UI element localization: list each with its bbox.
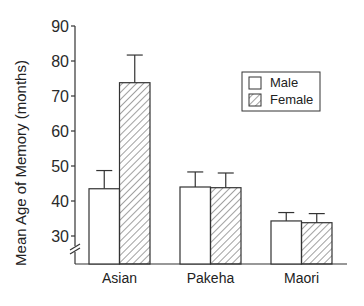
y-tick-label: 50 (51, 158, 69, 175)
y-tick-label: 80 (51, 53, 69, 70)
labels: AsianPakehaMaori (102, 270, 319, 286)
bar-male-asian (89, 189, 120, 264)
bar-male-maori (271, 221, 302, 264)
y-tick-label: 30 (51, 228, 69, 245)
y-axis-title: Mean Age of Memory (months) (12, 60, 29, 266)
x-category-label: Maori (284, 270, 319, 286)
y-tick-label: 70 (51, 88, 69, 105)
y-tick-label: 90 (51, 18, 69, 35)
bar-male-pakeha (180, 187, 211, 264)
bar-female-pakeha (211, 188, 242, 264)
x-category-label: Pakeha (187, 270, 235, 286)
bar-chart: 30405060708090 AsianPakehaMaori Mean Age… (0, 0, 364, 306)
bar-female-asian (120, 83, 151, 264)
bar-female-maori (302, 223, 333, 264)
legend-label-female: Female (270, 92, 313, 107)
x-category-label: Asian (102, 270, 137, 286)
y-tick-label: 60 (51, 123, 69, 140)
legend: Male Female (242, 72, 320, 111)
y-tick-label: 40 (51, 193, 69, 210)
legend-label-male: Male (270, 75, 298, 90)
legend-swatch-male (249, 77, 261, 89)
legend-swatch-female (249, 94, 261, 106)
